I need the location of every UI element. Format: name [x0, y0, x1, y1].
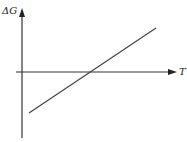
x-axis-label: T: [179, 67, 186, 77]
y-axis-arrow-icon: [19, 8, 25, 17]
y-axis-label: ΔG: [2, 6, 17, 16]
x-axis-arrow-icon: [168, 69, 177, 75]
delta-g-line: [29, 28, 156, 113]
chart-canvas: [0, 0, 187, 142]
